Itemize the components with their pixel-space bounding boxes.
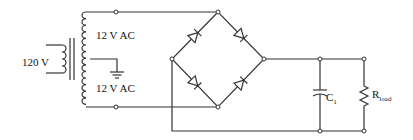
terminal-node <box>362 129 366 133</box>
terminal-node <box>318 57 322 61</box>
bridge-node-left <box>170 57 174 61</box>
primary-voltage-label: 120 V <box>22 56 49 68</box>
bridge-node-top <box>216 10 220 14</box>
negative-rail <box>172 59 364 131</box>
resistor-label: Rload <box>372 88 392 103</box>
capacitor-label: C1 <box>326 91 337 106</box>
secondary-lower-label: 12 V AC <box>96 82 135 94</box>
circuit-diagram: 120 V 12 V AC 12 V AC C1 Rload <box>0 0 413 140</box>
terminal-node <box>318 129 322 133</box>
transformer-secondary-coil <box>82 12 86 104</box>
diode-bridge <box>172 12 264 107</box>
bridge-node-bottom <box>216 105 220 109</box>
ground-icon <box>90 59 124 78</box>
terminal-node <box>362 57 366 61</box>
resistor-icon <box>360 59 368 131</box>
transformer-core <box>70 38 74 80</box>
secondary-upper-label: 12 V AC <box>96 29 135 41</box>
bridge-node-right <box>262 57 266 61</box>
terminal-node <box>114 10 118 14</box>
transformer-primary-coil <box>46 45 66 73</box>
terminal-node <box>114 105 118 109</box>
capacitor-icon <box>313 59 327 131</box>
